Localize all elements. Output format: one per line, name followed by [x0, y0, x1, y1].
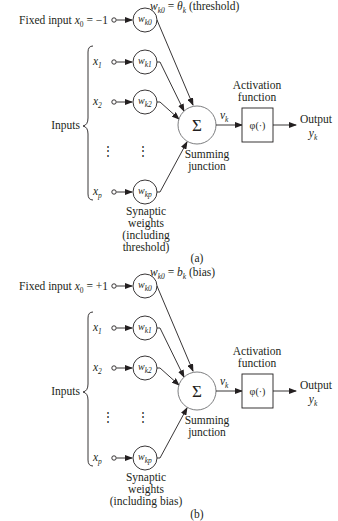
input-label-2: x2 — [92, 361, 102, 376]
link-k2-sum — [157, 368, 179, 385]
output-var-label: yk — [308, 393, 318, 408]
sum-symbol: Σ — [192, 116, 202, 135]
input-label-1: x1 — [92, 55, 102, 70]
summing-junction-label: junction — [187, 160, 226, 173]
panel-caption: (a) — [191, 252, 204, 265]
bias-label: wk0 = bk (bias) — [150, 266, 215, 281]
ellipsis-1: ⋮ — [137, 145, 149, 157]
inputs-label: Inputs — [51, 385, 80, 398]
link-k1-sum — [157, 328, 184, 377]
input-label-1: x1 — [92, 321, 102, 336]
induced-field-label: vk — [220, 375, 229, 390]
synaptic-weights-label: threshold) — [123, 241, 170, 254]
ellipsis-0: ⋮ — [102, 411, 114, 423]
inputs-brace — [83, 312, 93, 466]
ellipsis-0: ⋮ — [102, 145, 114, 157]
input-terminal-icon — [112, 326, 116, 330]
inputs-brace — [83, 46, 93, 200]
output-var-label: yk — [308, 127, 318, 142]
input-terminal-icon — [112, 456, 116, 460]
link-kp-sum — [157, 408, 187, 458]
panel-b: Fixed input x0 = +1wk0wk0 = bk (bias)x1w… — [19, 266, 333, 521]
activation-function-label: Activation — [233, 345, 282, 357]
synaptic-weights-label: (including bias) — [110, 495, 183, 508]
neuron-model-diagram: Fixed input x0 = −1wk0wk0 = θk (threshol… — [0, 0, 338, 521]
inputs-label: Inputs — [51, 119, 80, 132]
input-label-2: x2 — [92, 95, 102, 110]
panel-caption: (b) — [190, 508, 204, 521]
input-terminal-icon — [112, 284, 116, 288]
output-label: Output — [300, 113, 333, 126]
input-terminal-icon — [112, 366, 116, 370]
ellipsis-1: ⋮ — [137, 411, 149, 423]
fixed-input-label: Fixed input x0 = +1 — [19, 280, 108, 295]
activation-function-label: function — [238, 357, 277, 369]
induced-field-label: vk — [220, 109, 229, 124]
input-terminal-icon — [112, 100, 116, 104]
input-terminal-icon — [112, 18, 116, 22]
link-k1-sum — [157, 62, 184, 111]
input-label-p: xp — [92, 451, 102, 466]
activation-function-label: function — [238, 91, 277, 103]
bias-label: wk0 = θk (threshold) — [150, 0, 240, 15]
activation-function-label: Activation — [233, 79, 282, 91]
input-label-p: xp — [92, 185, 102, 200]
fixed-input-label: Fixed input x0 = −1 — [19, 14, 108, 29]
sum-symbol: Σ — [192, 382, 202, 401]
input-terminal-icon — [112, 190, 116, 194]
output-label: Output — [300, 379, 333, 392]
panel-a: Fixed input x0 = −1wk0wk0 = θk (threshol… — [19, 0, 333, 265]
summing-junction-label: junction — [187, 426, 226, 439]
link-kp-sum — [157, 142, 187, 192]
activation-symbol: φ(·) — [250, 386, 266, 398]
link-k2-sum — [157, 102, 179, 119]
activation-symbol: φ(·) — [250, 120, 266, 132]
input-terminal-icon — [112, 60, 116, 64]
